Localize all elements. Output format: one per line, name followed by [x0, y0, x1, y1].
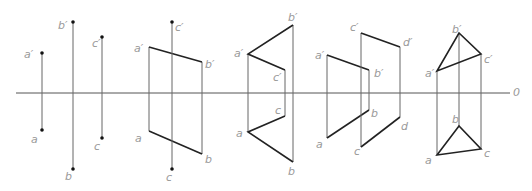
label: b	[452, 114, 459, 125]
label: a′	[234, 48, 243, 59]
label: b′	[205, 59, 214, 70]
label: a	[316, 139, 323, 150]
label: a′	[425, 68, 434, 79]
label: b′	[374, 68, 383, 79]
label: a′	[134, 43, 143, 54]
label: c′	[175, 22, 184, 33]
label: c	[275, 105, 281, 116]
label: b	[205, 154, 212, 165]
label: b	[288, 166, 295, 177]
label: c′	[273, 72, 282, 83]
label: b′	[452, 24, 461, 35]
label: c′	[350, 22, 359, 33]
point-b-prime	[71, 20, 75, 24]
projection-diagram: 0 a′ b′ c′ a c b a′ c′ b′ a b c b′ a′ c′…	[0, 0, 532, 191]
label: b′	[58, 20, 67, 31]
label: b′	[288, 12, 297, 23]
figure-two-planes	[327, 33, 400, 147]
label: b	[371, 108, 378, 119]
label: b	[65, 171, 72, 182]
label: a	[425, 155, 432, 166]
point-c	[100, 136, 104, 140]
label: c	[94, 141, 100, 152]
label: c	[354, 146, 360, 157]
label: a	[31, 134, 38, 145]
label: c	[166, 172, 172, 183]
label: c	[484, 148, 490, 159]
label: c′	[92, 38, 101, 49]
label: a′	[24, 49, 33, 60]
label: a′	[315, 50, 324, 61]
label: d	[401, 121, 408, 132]
label: a	[236, 128, 243, 139]
label: a	[135, 133, 142, 144]
label: c′	[484, 54, 493, 65]
figure-triangle	[437, 33, 481, 155]
label: d′	[403, 37, 412, 48]
point-a	[40, 128, 44, 132]
figure-plane-abc	[149, 20, 202, 171]
axis-label: 0	[513, 87, 520, 98]
point-a-prime	[40, 51, 44, 55]
